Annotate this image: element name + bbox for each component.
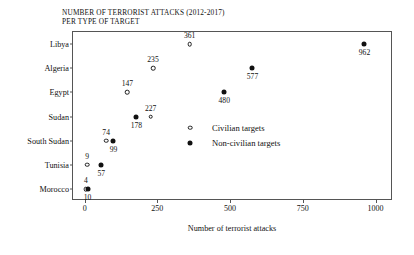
legend-open-circle-icon <box>188 125 193 130</box>
plot-area: LibyaAlgeriaEgyptSudanSouth SudanTunisia… <box>73 32 391 199</box>
x-axis-tick <box>157 199 158 203</box>
data-point-label: 74 <box>102 128 110 137</box>
data-point-label: 57 <box>97 169 105 178</box>
x-axis-tick-label: 500 <box>224 204 236 213</box>
legend-label: Non-civilian targets <box>212 138 280 148</box>
x-axis-tick <box>376 199 377 203</box>
page-subtitle: PER TYPE OF TARGET <box>62 18 392 27</box>
data-point-label: 9 <box>85 152 89 161</box>
data-point <box>125 90 130 95</box>
x-axis-tick-label: 0 <box>83 204 87 213</box>
data-point <box>187 42 192 47</box>
y-axis-tick <box>70 68 73 69</box>
y-axis-label-south-sudan: South Sudan <box>27 136 69 145</box>
data-point-label: 147 <box>122 79 133 88</box>
y-axis-label-sudan: Sudan <box>49 112 69 121</box>
data-point <box>85 186 90 191</box>
data-point-label: 361 <box>184 31 195 40</box>
data-point-label: 99 <box>110 145 118 154</box>
data-point-label: 577 <box>247 72 258 81</box>
data-point-label: 178 <box>131 121 142 130</box>
x-axis-tick <box>303 199 304 203</box>
x-axis-tick-label: 250 <box>151 204 163 213</box>
data-point <box>222 90 227 95</box>
y-axis-label-tunisia: Tunisia <box>45 160 69 169</box>
x-axis-title: Number of terrorist attacks <box>72 224 392 233</box>
data-point <box>85 162 90 167</box>
y-axis-tick <box>70 44 73 45</box>
data-point-label: 227 <box>145 104 156 113</box>
y-axis-tick <box>70 92 73 93</box>
x-axis-tick <box>230 199 231 203</box>
data-point-label: 235 <box>147 55 158 64</box>
legend-filled-circle-icon <box>188 140 193 145</box>
data-point <box>111 138 116 143</box>
chart-title-block: NUMBER OF TERRORIST ATTACKS (2012-2017) … <box>62 9 392 26</box>
y-axis-tick <box>70 164 73 165</box>
data-point <box>148 114 153 119</box>
data-point-label: 10 <box>84 193 92 202</box>
y-axis-tick <box>70 188 73 189</box>
y-axis-label-morocco: Morocco <box>39 184 69 193</box>
data-point <box>104 138 109 143</box>
data-point <box>99 162 104 167</box>
data-point-label: 480 <box>219 96 230 105</box>
x-axis-tick-label: 750 <box>297 204 309 213</box>
legend-label: Civilian targets <box>212 123 265 133</box>
y-axis-label-egypt: Egypt <box>49 88 69 97</box>
x-axis-tick-label: 1000 <box>368 204 384 213</box>
y-axis-tick <box>70 116 73 117</box>
data-point <box>134 114 139 119</box>
y-axis-tick <box>70 140 73 141</box>
data-point-label: 4 <box>84 176 88 185</box>
data-point <box>362 42 367 47</box>
y-axis-label-algeria: Algeria <box>44 64 69 73</box>
plot-frame: LibyaAlgeriaEgyptSudanSouth SudanTunisia… <box>72 31 392 200</box>
data-point-label: 962 <box>359 48 370 57</box>
chart-figure: NUMBER OF TERRORIST ATTACKS (2012-2017) … <box>0 0 414 255</box>
data-point <box>250 66 255 71</box>
y-axis-label-libya: Libya <box>50 40 69 49</box>
data-point <box>151 66 156 71</box>
